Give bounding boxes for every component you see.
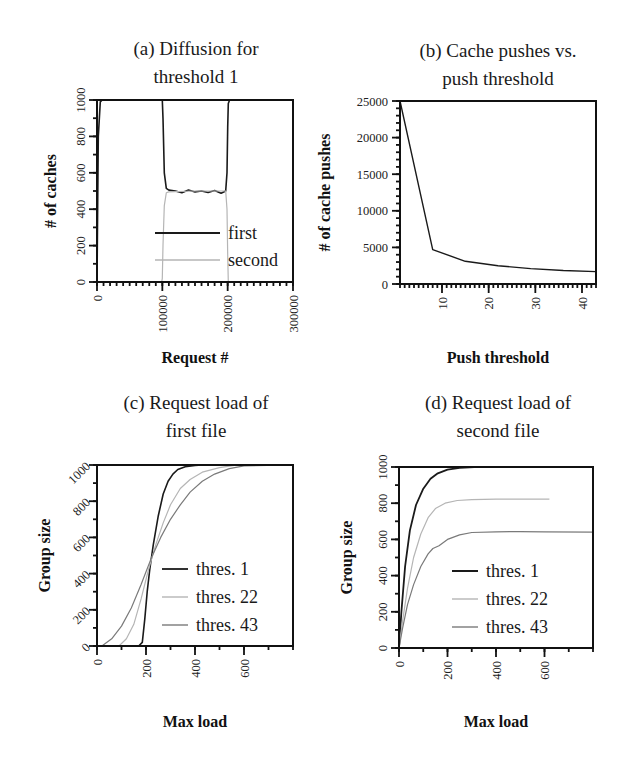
y-tick-label: 0 [382,278,388,292]
legend-entry: thres. 1 [196,559,249,579]
series-line-thres-1 [97,465,293,646]
x-tick-label: 400 [490,661,504,680]
x-axis-label: Max load [163,713,228,730]
y-tick-label: 15000 [357,168,388,182]
x-tick-label: 10 [436,297,450,310]
x-axis-label: Push threshold [447,349,550,366]
plot-frame [400,101,596,284]
x-tick-label: 0 [393,661,407,667]
series-group [97,465,293,646]
chart-title-line: (a) Diffusion for [133,38,259,60]
legend-entry: thres. 43 [486,617,548,637]
chart-title-line: (d) Request load of [425,392,572,414]
y-axis-label: Group size [36,519,54,593]
x-tick-label: 30 [529,297,543,310]
x-tick-label: 200 [140,659,154,678]
legend: firstsecond [155,223,278,270]
y-tick-label: 600 [74,163,88,182]
y-tick-label: 400 [74,200,88,219]
legend-entry: thres. 22 [486,589,548,609]
x-tick-label: 600 [538,661,552,680]
y-tick-label: 600 [70,532,93,555]
x-tick-label: 600 [238,659,252,678]
y-tick-label: 200 [70,604,93,627]
x-tick-label: 40 [576,297,590,310]
x-tick-label: 100000 [156,295,170,333]
x-tick-label: 0 [91,295,105,301]
series-line-thres-22 [97,465,293,646]
legend-entry: second [228,250,278,270]
chart-title-line: (b) Cache pushes vs. [419,40,576,62]
panel-c-request-load-first-chart: (c) Request load offirst file02004006000… [36,392,293,730]
y-tick-label: 10000 [357,204,388,218]
x-tick-label: 200000 [221,295,235,333]
x-tick-label: 300000 [287,295,301,333]
x-tick-label: 20 [482,297,496,310]
chart-title-line: threshold 1 [154,66,239,87]
x-axis-label: Request # [161,349,228,367]
series-line-thres-1 [399,467,474,648]
panel-b-cache-pushes-chart: (b) Cache pushes vs.push threshold102030… [316,40,596,366]
y-axis-label: # of caches [42,154,59,228]
x-tick-label: 0 [91,659,105,665]
x-tick-label: 400 [189,659,203,678]
y-tick-label: 200 [376,602,390,621]
y-tick-label: 800 [74,127,88,146]
chart-title-line: push threshold [442,68,554,89]
x-tick-label: 200 [441,661,455,680]
y-tick-label: 5000 [363,241,388,255]
y-tick-label: 400 [376,566,390,585]
y-tick-label: 20000 [357,131,388,145]
panel-a-diffusion-chart: (a) Diffusion forthreshold 1010000020000… [42,38,301,367]
x-axis-label: Max load [464,713,529,730]
series-group [400,101,596,272]
legend-entry: thres. 43 [196,615,258,635]
y-tick-label: 1000 [66,459,94,487]
y-axis-label: Group size [338,521,356,595]
y-tick-label: 200 [74,236,88,255]
y-tick-label: 1000 [74,88,88,113]
y-tick-label: 600 [376,530,390,549]
legend: thres. 1thres. 22thres. 43 [162,559,258,635]
y-tick-label: 0 [79,640,93,654]
y-tick-label: 400 [70,568,93,591]
series-line-thres-43 [97,465,293,646]
chart-title-line: first file [166,420,227,441]
figure: (a) Diffusion forthreshold 1010000020000… [0,0,627,757]
panel-d-request-load-second-chart: (d) Request load ofsecond file0200400600… [338,392,593,730]
legend: thres. 1thres. 22thres. 43 [452,561,548,637]
chart-title-line: second file [457,420,540,441]
y-tick-label: 1000 [376,455,390,480]
series-line-pushes [400,101,596,272]
y-tick-label: 800 [70,495,93,518]
legend-entry: thres. 1 [486,561,539,581]
y-axis-label: # of cache pushes [316,134,334,252]
legend-entry: thres. 22 [196,587,258,607]
chart-title-line: (c) Request load of [123,392,269,414]
y-tick-label: 0 [74,279,88,285]
legend-entry: first [228,223,257,243]
plot-frame [97,465,293,646]
y-tick-label: 25000 [357,95,388,109]
y-tick-label: 0 [376,645,390,651]
y-tick-label: 800 [376,494,390,513]
